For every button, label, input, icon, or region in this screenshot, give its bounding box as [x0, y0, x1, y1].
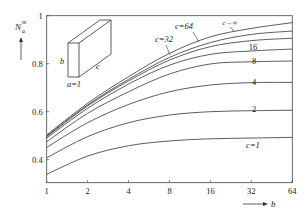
- x-tick-label: 2: [86, 186, 90, 196]
- x-tick-label: 1: [45, 186, 49, 196]
- leader-line-c32: [166, 45, 170, 55]
- prism-front-face: [68, 43, 79, 77]
- curve-labels: c=124816c=32c=64c→∞: [155, 19, 260, 150]
- curve-label: c=32: [155, 34, 174, 44]
- x-axis-title: b: [271, 199, 276, 209]
- prism-label-c: c: [96, 61, 100, 71]
- x-tick-label: 16: [206, 186, 215, 196]
- prism-inset: bca=1: [60, 20, 111, 89]
- demagnetization-factor-chart: 12481632640.40.60.81 c=124816c=32c=64c→∞…: [0, 0, 308, 219]
- y-tick-label: 1: [38, 11, 42, 21]
- x-tick-label: 4: [126, 186, 131, 196]
- curve-label: c→∞: [222, 19, 237, 27]
- curve-label: c=1: [246, 140, 260, 150]
- prism-top-face: [68, 20, 111, 43]
- curve-c2: [47, 110, 293, 158]
- curve-label: 2: [252, 104, 256, 114]
- prism-side-face: [79, 20, 111, 77]
- chart-container: 12481632640.40.60.81 c=124816c=32c=64c→∞…: [0, 0, 308, 219]
- y-axis-title-subscript: a: [22, 28, 25, 34]
- y-axis-title-superscript: m: [22, 19, 27, 25]
- curve-c8: [47, 61, 293, 142]
- curve-label: 4: [252, 77, 257, 87]
- x-tick-label: 8: [167, 186, 171, 196]
- x-tick-label: 32: [247, 186, 256, 196]
- curve-label: 16: [249, 42, 258, 52]
- curve-label: c=64: [175, 21, 194, 31]
- y-tick-label: 0.8: [32, 59, 43, 69]
- y-axis-title: N: [14, 22, 22, 32]
- prism-label-b: b: [60, 56, 64, 66]
- y-arrow-icon: [19, 37, 23, 42]
- x-arrow-icon: [263, 202, 268, 206]
- x-tick-label: 64: [288, 186, 297, 196]
- curve-label: 8: [252, 56, 256, 66]
- axis-titles: Namb: [14, 19, 276, 209]
- leader-line-cinf: [230, 27, 234, 31]
- y-tick-label: 0.4: [32, 155, 43, 165]
- y-tick-label: 0.6: [32, 107, 43, 117]
- prism-label-a: a=1: [67, 79, 81, 89]
- leader-line-c64: [193, 32, 199, 42]
